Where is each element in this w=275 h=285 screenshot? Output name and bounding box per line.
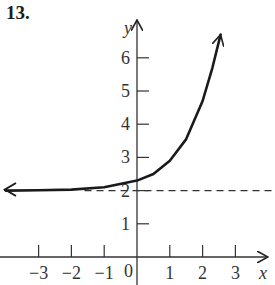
y-tick-label: 5 [121,81,130,101]
origin-label: 0 [124,261,133,281]
y-axis-label: y [122,18,132,38]
x-axis-label: x [258,263,267,283]
y-tick-label: 3 [121,147,130,167]
x-tick-label: 1 [165,263,174,283]
curve [5,35,221,196]
axes [0,20,268,285]
y-tick-label: 1 [121,214,130,234]
x-tick-label: 3 [231,263,240,283]
x-tick-label: −3 [29,263,48,283]
exponential-graph: −3−2−11231234560xy [0,0,275,285]
x-tick-label: 2 [198,263,207,283]
y-tick-label: 6 [121,48,130,68]
x-tick-label: −2 [62,263,81,283]
x-tick-label: −1 [95,263,114,283]
y-tick-label: 4 [121,114,130,134]
